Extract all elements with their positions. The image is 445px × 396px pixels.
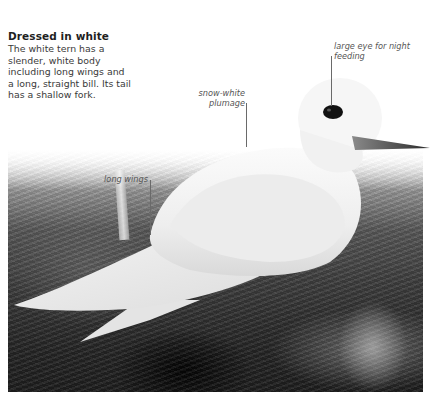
infographic-panel: Dressed in white The white tern has a sl… xyxy=(0,0,445,396)
leader-line-wings xyxy=(150,180,151,235)
leader-line-plumage xyxy=(246,103,247,147)
section-description: The white tern has a slender, white body… xyxy=(8,43,133,101)
callout-plumage: snow-white plumage xyxy=(190,88,245,108)
section-heading: Dressed in white xyxy=(8,30,109,42)
leader-line-eye xyxy=(331,56,332,106)
bird-eye xyxy=(323,105,343,119)
bird-bill xyxy=(352,136,430,150)
callout-wings: long wings xyxy=(102,174,148,184)
callout-eye: large eye for night feeding xyxy=(334,41,414,61)
